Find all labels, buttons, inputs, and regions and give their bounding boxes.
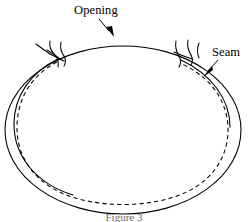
figure-diagram: Opening Seam Figure 3 bbox=[0, 0, 248, 222]
outer-rim-ellipse bbox=[5, 46, 241, 214]
seam-annotation: Seam bbox=[203, 45, 240, 77]
seam-dashed-path bbox=[17, 62, 228, 205]
seam-group bbox=[17, 62, 228, 205]
seam-arrowhead-icon bbox=[203, 66, 213, 77]
opening-arrowhead-icon bbox=[106, 26, 114, 37]
diagram-canvas: Opening Seam bbox=[0, 0, 248, 222]
inner-rim-group bbox=[14, 59, 230, 195]
opening-label: Opening bbox=[74, 3, 118, 17]
outer-rim-group bbox=[5, 46, 241, 214]
caption-clip: Figure 3 bbox=[0, 212, 248, 222]
opening-annotation: Opening bbox=[74, 3, 118, 37]
opening-leader-line bbox=[99, 19, 109, 31]
figure-caption: Figure 3 bbox=[106, 212, 143, 222]
caption-canvas: Figure 3 bbox=[0, 212, 248, 222]
seam-label: Seam bbox=[212, 45, 240, 59]
